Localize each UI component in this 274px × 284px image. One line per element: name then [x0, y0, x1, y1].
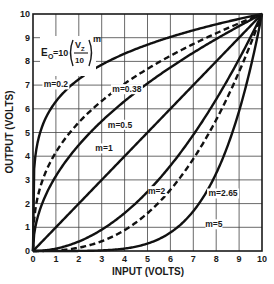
x-tick-label: 10	[257, 254, 267, 264]
y-tick-label: 6	[25, 104, 30, 114]
formula-numerator-sub: Z	[81, 46, 85, 52]
formula-annotation: E O =10 V Z 10 m	[40, 34, 101, 76]
x-tick-label: 7	[191, 254, 196, 264]
y-tick-label: 3	[25, 175, 30, 185]
y-tick-label: 5	[25, 128, 30, 138]
formula-exponent: m	[93, 34, 101, 44]
power-law-chart: 012345678910 012345678910 m=0.2m=0.38m=0…	[0, 0, 274, 284]
y-tick-label: 0	[25, 246, 30, 256]
annotation-m-2-65: m=2.65	[209, 188, 238, 198]
annotation-m-2: m=2	[148, 186, 166, 196]
x-tick-label: 6	[168, 254, 173, 264]
y-tick-label: 7	[25, 80, 30, 90]
y-tick-label: 4	[25, 151, 30, 161]
annotation-m-1: m=1	[95, 143, 113, 153]
y-tick-label: 9	[25, 33, 30, 43]
x-tick-label: 4	[122, 254, 127, 264]
x-tick-label: 8	[214, 254, 219, 264]
x-axis-ticks: 012345678910	[30, 254, 267, 264]
y-tick-label: 2	[25, 199, 30, 209]
formula-eq: =10	[53, 48, 68, 58]
formula-lhs: E	[41, 47, 48, 58]
y-tick-label: 1	[25, 222, 30, 232]
x-tick-label: 5	[145, 254, 150, 264]
x-tick-label: 3	[99, 254, 104, 264]
x-tick-label: 1	[53, 254, 58, 264]
annotation-m-0-2: m=0.2	[44, 79, 69, 89]
x-tick-label: 9	[237, 254, 242, 264]
y-axis-ticks: 012345678910	[20, 9, 30, 256]
annotation-m-0-5: m=0.5	[108, 120, 133, 130]
y-tick-label: 8	[25, 56, 30, 66]
annotation-m-0-38: m=0.38	[112, 84, 141, 94]
y-tick-label: 10	[20, 9, 30, 19]
annotation-m-5: m=5	[205, 219, 223, 229]
y-axis-label: OUTPUT (VOLTS)	[4, 90, 15, 173]
x-tick-label: 0	[30, 254, 35, 264]
formula-denominator: 10	[75, 56, 84, 65]
x-axis-label: INPUT (VOLTS)	[112, 266, 184, 277]
x-tick-label: 2	[76, 254, 81, 264]
